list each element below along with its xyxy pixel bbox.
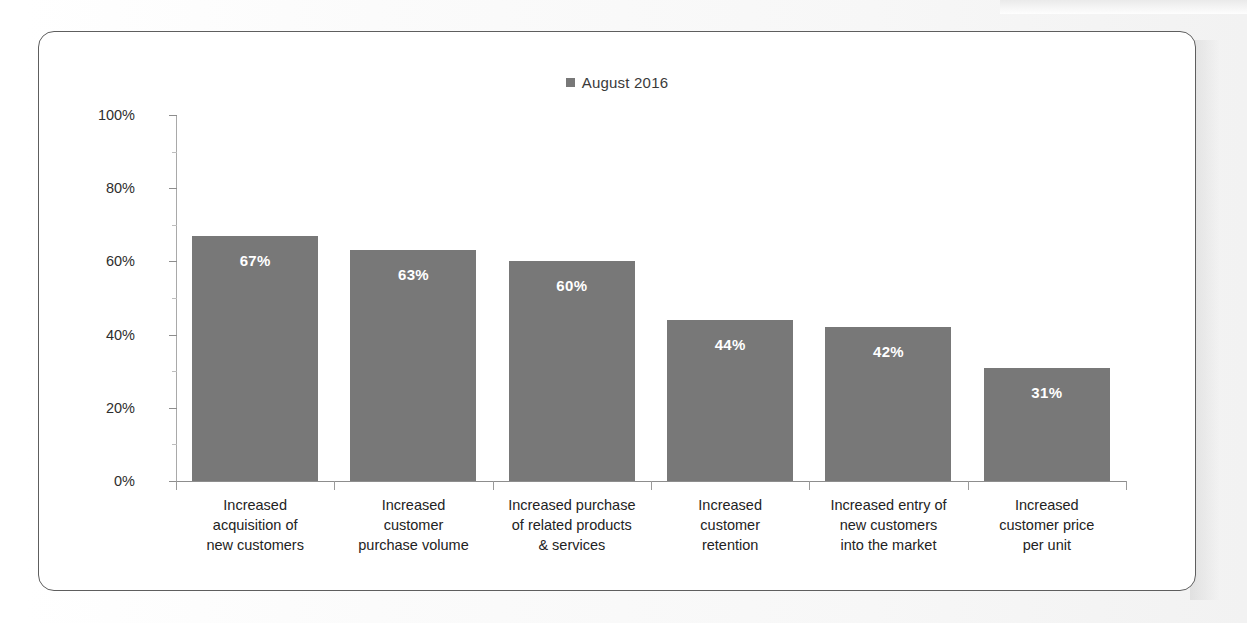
bar-value-label: 31%	[984, 384, 1110, 401]
bar-value-label: 60%	[509, 277, 635, 294]
category-label-line: acquisition of	[176, 515, 334, 535]
category-label-line: customer price	[968, 515, 1126, 535]
bar-value-label: 44%	[667, 336, 793, 353]
x-axis-tick	[1126, 481, 1127, 490]
category-label-line: new customers	[809, 515, 967, 535]
y-axis-tick-label: 0%	[65, 473, 135, 489]
scan-artifact	[1000, 0, 1247, 14]
x-axis-category-label: Increasedacquisition ofnew customers	[176, 495, 334, 555]
legend-series-label: August 2016	[582, 74, 668, 91]
category-label-line: new customers	[176, 535, 334, 555]
bar-value-label: 67%	[192, 252, 318, 269]
category-label-line: Increased	[651, 495, 809, 515]
chart-legend: August 2016	[39, 74, 1195, 91]
y-axis-tick-label: 60%	[65, 253, 135, 269]
x-axis-tick	[334, 481, 335, 490]
bar[interactable]: 67%	[192, 236, 318, 481]
category-label-line: Increased	[176, 495, 334, 515]
category-label-line: of related products	[493, 515, 651, 535]
category-label-line: & services	[493, 535, 651, 555]
y-axis-tick-label: 20%	[65, 400, 135, 416]
legend-square-icon	[566, 78, 575, 87]
category-label-line: customer	[334, 515, 492, 535]
category-label-line: into the market	[809, 535, 967, 555]
bar-value-label: 63%	[350, 266, 476, 283]
x-axis-category-label: Increased entry ofnew customersinto the …	[809, 495, 967, 555]
x-axis-tick	[651, 481, 652, 490]
category-label-line: customer	[651, 515, 809, 535]
x-axis-category-label: Increasedcustomerpurchase volume	[334, 495, 492, 555]
bar[interactable]: 44%	[667, 320, 793, 481]
x-axis-category-label: Increasedcustomerretention	[651, 495, 809, 555]
y-axis-tick-label: 100%	[65, 107, 135, 123]
category-label-line: Increased entry of	[809, 495, 967, 515]
y-axis-tick-label: 80%	[65, 180, 135, 196]
category-label-line: retention	[651, 535, 809, 555]
x-axis-tick	[968, 481, 969, 490]
x-axis-category-labels: Increasedacquisition ofnew customersIncr…	[176, 495, 1126, 575]
bar-series: 67%63%60%44%42%31%	[176, 115, 1126, 481]
x-axis-tick	[809, 481, 810, 490]
bar-slot: 67%	[176, 115, 334, 481]
bar-slot: 44%	[651, 115, 809, 481]
x-axis-tick	[176, 481, 177, 490]
bar-slot: 63%	[334, 115, 492, 481]
category-label-line: Increased	[968, 495, 1126, 515]
x-axis-category-label: Increased purchaseof related products& s…	[493, 495, 651, 555]
y-axis-tick-label: 40%	[65, 327, 135, 343]
category-label-line: Increased	[334, 495, 492, 515]
bar[interactable]: 60%	[509, 261, 635, 481]
plot-area: 0%20%40%60%80%100% 67%63%60%44%42%31% In…	[99, 115, 1164, 515]
chart-card: August 2016 0%20%40%60%80%100% 67%63%60%…	[38, 31, 1196, 591]
x-axis-category-label: Increasedcustomer priceper unit	[968, 495, 1126, 555]
bar[interactable]: 31%	[984, 368, 1110, 481]
bar-slot: 31%	[968, 115, 1126, 481]
category-label-line: per unit	[968, 535, 1126, 555]
bar-value-label: 42%	[825, 343, 951, 360]
bar[interactable]: 63%	[350, 250, 476, 481]
bar[interactable]: 42%	[825, 327, 951, 481]
bar-slot: 60%	[493, 115, 651, 481]
bar-slot: 42%	[809, 115, 967, 481]
category-label-line: purchase volume	[334, 535, 492, 555]
category-label-line: Increased purchase	[493, 495, 651, 515]
x-axis-tick	[493, 481, 494, 490]
